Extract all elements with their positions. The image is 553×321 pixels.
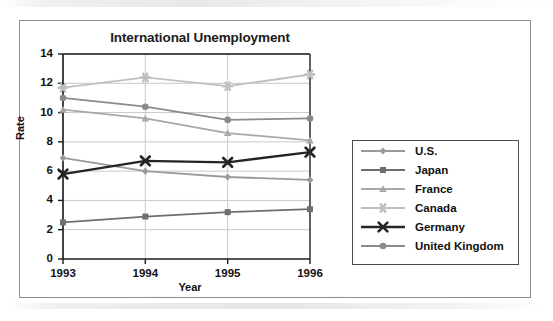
series-japan [60,206,313,225]
legend-marker-square-icon [359,163,407,177]
chart-legend: U.S.JapanFranceCanadaGermanyUnited Kingd… [352,140,519,265]
legend-item-canada[interactable]: Canada [353,198,518,217]
x-tick-label: 1993 [39,267,87,279]
figure-root: International Unemployment Rate Year 024… [0,0,553,321]
legend-item-label: Japan [415,164,448,176]
y-tick-label: 12 [27,76,53,88]
legend-marker-triangle-icon [359,182,407,196]
legend-marker-circle-icon [359,239,407,253]
legend-item-united-kingdom[interactable]: United Kingdom [353,236,518,255]
y-tick-label: 10 [27,106,53,118]
legend-item-u-s[interactable]: U.S. [353,141,518,160]
legend-item-japan[interactable]: Japan [353,160,518,179]
axes [58,54,310,264]
legend-item-label: Germany [415,221,465,233]
x-tick-label: 1994 [121,267,169,279]
x-tick-label: 1995 [204,267,252,279]
x-axis-label: Year [140,281,240,293]
y-tick-label: 8 [27,135,53,147]
legend-marker-x-icon [359,220,407,234]
y-tick-label: 6 [27,164,53,176]
y-tick-label: 2 [27,223,53,235]
y-tick-label: 4 [27,193,53,205]
series-france [59,106,314,144]
legend-marker-diamond-icon [359,144,407,158]
legend-item-label: U.S. [415,145,437,157]
x-tick-label: 1996 [286,267,334,279]
y-tick-label: 14 [27,47,53,59]
y-axis-label: Rate [14,116,26,140]
y-tick-label: 0 [27,252,53,264]
legend-item-germany[interactable]: Germany [353,217,518,236]
legend-item-label: United Kingdom [415,240,504,252]
data-series [58,70,315,225]
legend-item-label: Canada [415,202,457,214]
legend-item-label: France [415,183,453,195]
legend-item-france[interactable]: France [353,179,518,198]
legend-marker-star-icon [359,201,407,215]
series-canada [58,70,315,92]
series-united-kingdom [60,95,314,124]
